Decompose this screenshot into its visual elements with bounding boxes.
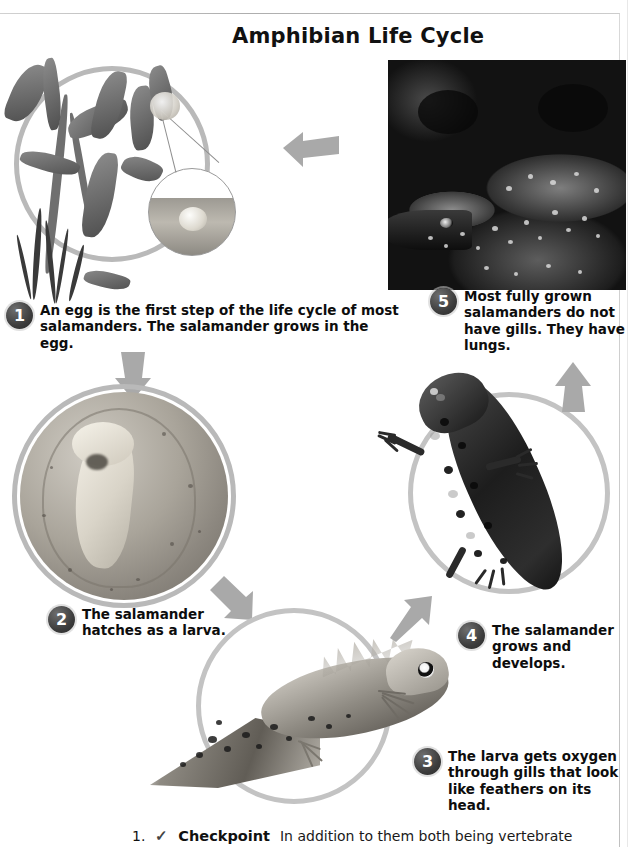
step-text-3: The larva gets oxygen through gills that… (448, 748, 630, 814)
juvenile-salamander-photo (400, 372, 630, 612)
adult-salamander-photo (388, 60, 626, 290)
arrow-step-5-to-step-1 (283, 126, 341, 168)
egg-on-leaf (150, 92, 180, 120)
step-badge-1: 1 (6, 302, 33, 329)
arrow-step-4-to-step-5 (552, 362, 594, 412)
step-caption-5: 5 Most fully grown salamanders do not ha… (430, 288, 626, 354)
page-title: Amphibian Life Cycle (232, 24, 484, 48)
step-caption-1: 1 An egg is the first step of the life c… (6, 302, 406, 351)
juvenile-hindleg-left (445, 546, 467, 579)
life-cycle-page: Amphibian Life Cycle (0, 0, 630, 847)
step-caption-2: 2 The salamander hatches as a larva. (48, 606, 238, 639)
page-edge-top (0, 13, 620, 14)
step-text-1: An egg is the first step of the life cyc… (40, 302, 406, 351)
egg-close-up (179, 207, 207, 231)
step-text-2: The salamander hatches as a larva. (82, 606, 238, 639)
embryo-eye (86, 454, 108, 470)
step-caption-3: 3 The larva gets oxygen through gills th… (414, 748, 630, 814)
checkpoint-text: In addition to them both being vertebrat… (280, 828, 572, 844)
step-caption-4: 4 The salamander grows and develops. (458, 622, 618, 671)
egg-magnifier-inset (148, 168, 236, 256)
embryo-in-egg-photo (20, 392, 228, 600)
step-badge-4: 4 (458, 622, 485, 649)
larva-eye (418, 662, 434, 678)
checkpoint-label: Checkpoint (178, 828, 270, 844)
adult-tail (388, 210, 472, 250)
question-number: 1. (132, 828, 145, 844)
step-text-4: The salamander grows and develops. (492, 622, 618, 671)
step-badge-2: 2 (48, 606, 75, 633)
checkpoint-row: 1. ✓ Checkpoint In addition to them both… (132, 827, 630, 847)
check-icon: ✓ (155, 827, 168, 845)
adult-eye (440, 218, 453, 228)
step-badge-3: 3 (414, 748, 441, 775)
step-text-5: Most fully grown salamanders do not have… (464, 288, 626, 354)
larva-with-gills-photo (150, 620, 450, 800)
step-badge-5: 5 (430, 288, 457, 315)
